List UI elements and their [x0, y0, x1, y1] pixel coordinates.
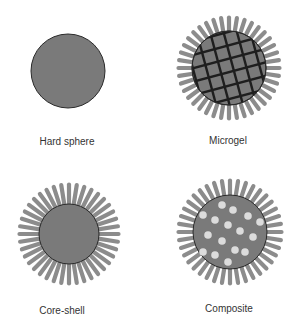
composite-particle [179, 181, 282, 284]
label-composite: Composite [205, 303, 253, 314]
label-microgel: Microgel [209, 135, 247, 146]
core [31, 34, 105, 108]
label-hard-sphere: Hard sphere [39, 136, 94, 147]
label-core-shell: Core-shell [39, 305, 85, 316]
microgel-particle [156, 0, 300, 141]
core [193, 195, 267, 269]
particle-diagram [0, 0, 300, 333]
core [39, 204, 99, 264]
core-shell-particle [20, 185, 119, 284]
hard-sphere-particle [31, 34, 105, 108]
